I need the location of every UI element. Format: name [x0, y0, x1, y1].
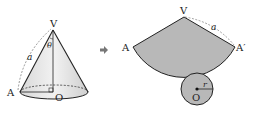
cone-net: V A A′ a r O [121, 5, 246, 105]
cone-figure: V A O a θ [6, 18, 88, 103]
cone-apex-label: V [49, 18, 58, 29]
cone-angle-label: θ [47, 41, 52, 50]
cone-body [20, 30, 88, 99]
net-apex-label: V [179, 5, 188, 16]
cone-slant-label: a [27, 52, 32, 62]
lateral-sector [133, 17, 235, 77]
net-center-label: O [192, 92, 200, 103]
net-point-a-prime-label: A′ [235, 42, 246, 53]
cone-center-label: O [55, 92, 63, 103]
arrow-icon [100, 46, 108, 54]
cone-point-a-label: A [6, 87, 15, 98]
net-slant-label: a [211, 22, 216, 32]
base-center-dot [195, 87, 198, 90]
cone-net-diagram: V A O a θ V A A′ a r O [0, 0, 253, 113]
net-point-a-label: A [121, 42, 130, 53]
